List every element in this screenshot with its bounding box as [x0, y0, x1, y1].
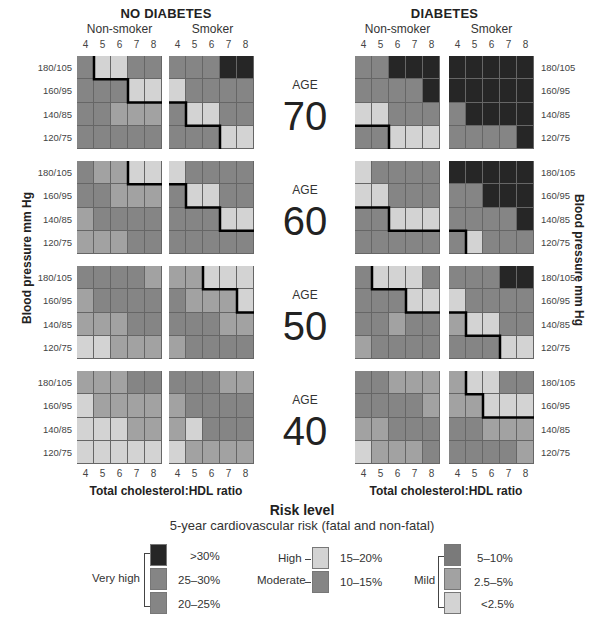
threshold-step-line	[94, 56, 162, 103]
x-tick-bottom: 8	[145, 468, 162, 479]
risk-cell	[128, 394, 145, 417]
risk-cell	[423, 441, 440, 464]
risk-threshold-line	[169, 56, 254, 149]
risk-cell	[517, 56, 534, 79]
age-label: AGE	[265, 183, 345, 197]
risk-cell	[111, 418, 128, 441]
risk-grid	[449, 371, 534, 464]
x-tick-top: 5	[372, 39, 389, 50]
risk-cell	[483, 79, 500, 102]
x-tick-top: 7	[128, 39, 145, 50]
bp-label-right: 120/75	[541, 342, 570, 353]
legend-15-20-text: 15–20%	[340, 552, 382, 564]
risk-cell	[406, 441, 423, 464]
risk-cell	[111, 289, 128, 312]
risk-cell	[128, 371, 145, 394]
risk-cell	[145, 394, 162, 417]
risk-cell	[372, 418, 389, 441]
risk-cell	[500, 126, 517, 149]
legend-swatch-10-15	[312, 571, 329, 593]
risk-grid	[449, 266, 534, 359]
x-tick-bottom: 6	[203, 468, 220, 479]
risk-cell	[355, 371, 372, 394]
risk-cell	[203, 394, 220, 417]
bp-label-left: 160/95	[30, 295, 72, 306]
age-label: AGE	[265, 78, 345, 92]
risk-cell	[94, 266, 111, 289]
risk-cell	[372, 394, 389, 417]
age-value: 70	[265, 96, 345, 136]
risk-cell	[94, 371, 111, 394]
x-tick-top: 7	[220, 39, 237, 50]
legend-under-2-5-text: <2.5%	[481, 598, 514, 610]
threshold-step-line	[372, 266, 440, 313]
risk-cell	[389, 371, 406, 394]
risk-grid	[169, 56, 254, 149]
risk-cell	[94, 394, 111, 417]
risk-cell	[203, 441, 220, 464]
x-tick-bottom: 5	[466, 468, 483, 479]
bp-label-right: 160/95	[541, 400, 570, 411]
risk-cell	[372, 371, 389, 394]
x-tick-bottom: 6	[389, 468, 406, 479]
age-label: AGE	[265, 393, 345, 407]
threshold-step-line	[466, 371, 534, 418]
risk-cell	[128, 266, 145, 289]
risk-cell	[237, 418, 254, 441]
risk-grid	[169, 266, 254, 359]
risk-cell	[111, 371, 128, 394]
risk-cell	[355, 441, 372, 464]
risk-threshold-line	[77, 161, 162, 254]
y-axis-title-left: Blood pressure mm Hg	[20, 194, 34, 324]
risk-cell	[500, 56, 517, 79]
x-tick-top: 7	[500, 39, 517, 50]
risk-cell	[77, 441, 94, 464]
risk-cell	[169, 418, 186, 441]
risk-cell	[220, 441, 237, 464]
risk-threshold-line	[169, 161, 254, 254]
x-tick-bottom: 7	[406, 468, 423, 479]
risk-cell	[77, 371, 94, 394]
legend-25-30-text: 25–30%	[178, 574, 220, 586]
risk-cell	[449, 126, 466, 149]
risk-cell	[145, 313, 162, 336]
risk-cell	[406, 371, 423, 394]
bp-label-left: 180/105	[30, 377, 72, 388]
legend-swatch-25-30	[150, 568, 167, 590]
risk-grid	[355, 56, 440, 149]
risk-cell	[389, 394, 406, 417]
risk-cell	[186, 418, 203, 441]
bp-label-right: 120/75	[541, 132, 570, 143]
diabetes-non-smoker-label: Non-smoker	[350, 22, 445, 36]
age-value: 40	[265, 411, 345, 451]
risk-cell	[94, 289, 111, 312]
risk-cell	[517, 103, 534, 126]
bp-label-left: 140/85	[30, 424, 72, 435]
bp-label-right: 120/75	[541, 447, 570, 458]
bp-label-right: 140/85	[541, 214, 570, 225]
threshold-step-line	[203, 266, 254, 313]
risk-cell	[500, 103, 517, 126]
age-value: 60	[265, 201, 345, 241]
threshold-step-line	[169, 184, 254, 231]
risk-cell	[449, 103, 466, 126]
risk-cell	[77, 394, 94, 417]
risk-cell	[128, 289, 145, 312]
risk-grid	[169, 371, 254, 464]
age-value: 50	[265, 306, 345, 346]
bp-label-right: 120/75	[541, 237, 570, 248]
legend-swatch-2-5-5	[444, 568, 461, 590]
bp-label-right: 160/95	[541, 85, 570, 96]
risk-threshold-line	[355, 266, 440, 359]
age-label: AGE	[265, 288, 345, 302]
risk-cell	[220, 418, 237, 441]
risk-cell	[517, 79, 534, 102]
risk-cell	[111, 441, 128, 464]
risk-cell	[94, 313, 111, 336]
risk-cell	[128, 336, 145, 359]
bp-label-right: 180/105	[541, 377, 575, 388]
legend-very-high-label: Very high	[92, 572, 140, 584]
bp-label-right: 180/105	[541, 62, 575, 73]
bp-label-left: 120/75	[30, 342, 72, 353]
legend-mild-label: Mild	[414, 574, 435, 586]
